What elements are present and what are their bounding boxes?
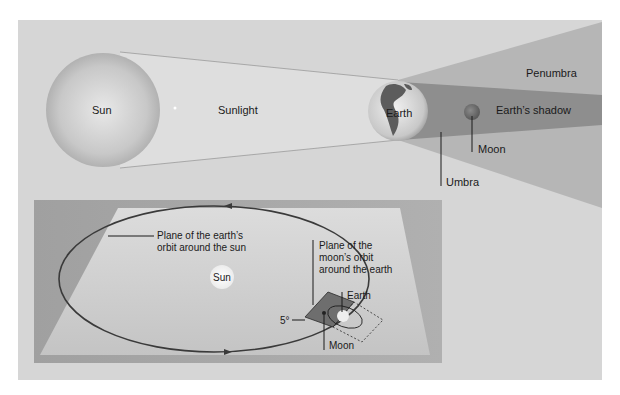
- inset-moon: [322, 311, 326, 315]
- earth-label: Earth: [386, 107, 412, 119]
- sunlight-label: Sunlight: [218, 104, 258, 116]
- moon-orbit-label-line1: Plane of the: [319, 240, 372, 252]
- inset-earth-label: Earth: [347, 290, 371, 302]
- sparkle-icon: [174, 107, 177, 110]
- umbra-label: Umbra: [446, 176, 479, 188]
- angle-label: 5°: [280, 315, 290, 327]
- inset-sun-label: Sun: [213, 272, 231, 284]
- moon-orbit-label-line3: around the earth: [319, 264, 392, 276]
- eclipse-diagram: [0, 0, 620, 395]
- inset-earth: [337, 310, 349, 322]
- earth-shadow-label: Earth’s shadow: [496, 104, 571, 116]
- earth-orbit-label-line2: orbit around the sun: [157, 242, 246, 254]
- inset-moon-label: Moon: [329, 340, 354, 352]
- sun-label: Sun: [92, 104, 112, 116]
- moon-label: Moon: [478, 143, 506, 155]
- earth-orbit-label-line1: Plane of the earth’s: [157, 230, 243, 242]
- penumbra-label: Penumbra: [526, 67, 577, 79]
- moon-orbit-label-line2: moon’s orbit: [319, 252, 373, 264]
